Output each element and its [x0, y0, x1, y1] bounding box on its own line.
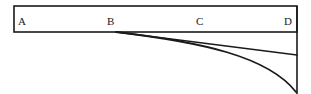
deflection-curve — [116, 32, 296, 92]
figure-container: A B C D — [0, 0, 311, 94]
point-label-a: A — [18, 16, 26, 27]
point-label-c: C — [196, 16, 203, 27]
point-label-d: D — [284, 16, 292, 27]
figure-drawing — [0, 0, 311, 94]
beam-rectangle — [14, 6, 297, 32]
point-label-b: B — [107, 16, 114, 27]
